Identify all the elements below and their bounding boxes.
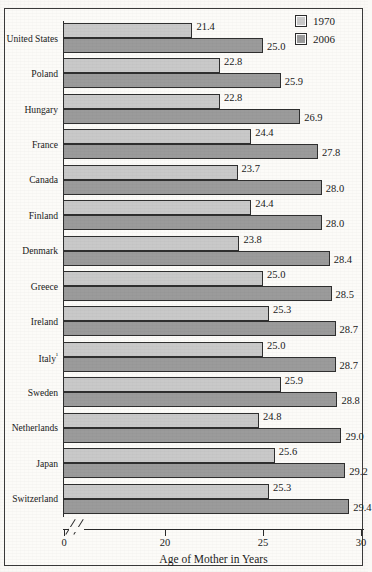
bar-value-label: 28.7: [340, 361, 358, 372]
bar-italy-2006: [63, 357, 336, 372]
chart-frame: 1970 2006 United StatesPolandHungaryFran…: [4, 8, 363, 566]
category-label: France: [32, 140, 58, 150]
bar-value-label: 22.8: [224, 57, 242, 68]
category-label: Denmark: [22, 246, 58, 256]
x-tick-label: 25: [258, 538, 269, 549]
bar-value-label: 25.3: [273, 305, 291, 316]
bar-value-label: 24.4: [255, 199, 273, 210]
bar-ireland-2006: [63, 321, 336, 336]
x-tick: [263, 529, 264, 536]
bar-value-label: 25.6: [279, 447, 297, 458]
category-label: Poland: [31, 69, 58, 79]
bar-united-states-1970: [63, 23, 192, 38]
category-label: Finland: [29, 211, 58, 221]
bar-value-label: 28.0: [326, 219, 344, 230]
bar-value-label: 25.3: [273, 483, 291, 494]
bar-greece-1970: [63, 271, 263, 286]
x-tick-label: 0: [61, 538, 66, 549]
x-tick-label: 20: [160, 538, 171, 549]
axis-break-mask: [69, 527, 84, 532]
x-tick: [361, 529, 362, 536]
bar-value-label: 29.2: [349, 467, 367, 478]
bar-canada-2006: [63, 180, 322, 195]
bar-italy-1970: [63, 342, 263, 357]
bar-value-label: 25.9: [285, 376, 303, 387]
x-tick: [64, 529, 65, 536]
category-label: Canada: [29, 175, 58, 185]
category-label-column: United StatesPolandHungaryFranceCanadaFi…: [5, 9, 63, 517]
bar-value-label: 29.4: [353, 503, 371, 514]
bar-value-label: 25.0: [267, 341, 285, 352]
x-axis-title: Age of Mother in Years: [63, 554, 364, 566]
category-label: Greece: [31, 282, 58, 292]
bar-value-label: 22.8: [224, 93, 242, 104]
bar-value-label: 25.9: [285, 77, 303, 88]
bar-value-label: 25.0: [267, 42, 285, 53]
bar-value-label: 26.9: [304, 113, 322, 124]
bar-switzerland-2006: [63, 499, 349, 514]
bar-denmark-2006: [63, 251, 330, 266]
bar-value-label: 28.7: [340, 325, 358, 336]
bar-ireland-1970: [63, 306, 269, 321]
bar-greece-2006: [63, 286, 332, 301]
bar-sweden-1970: [63, 377, 281, 392]
bar-sweden-2006: [63, 392, 337, 407]
x-tick: [165, 529, 166, 536]
bar-japan-2006: [63, 463, 345, 478]
category-label: Sweden: [28, 388, 58, 398]
bar-value-label: 24.8: [263, 412, 281, 423]
category-label: Ireland: [31, 317, 58, 327]
bar-united-states-2006: [63, 38, 263, 53]
category-label: Japan: [36, 459, 58, 469]
bar-value-label: 23.7: [242, 164, 260, 175]
bar-netherlands-2006: [63, 428, 341, 443]
bar-value-label: 29.0: [345, 432, 363, 443]
x-tick-label: 30: [356, 538, 367, 549]
bar-value-label: 24.4: [255, 128, 273, 139]
category-label: Switzerland: [12, 494, 58, 504]
plot-area: 21.425.022.825.922.826.924.427.823.728.0…: [63, 21, 364, 517]
bar-france-1970: [63, 129, 251, 144]
bar-value-label: 23.8: [243, 235, 261, 246]
bar-value-label: 28.4: [334, 255, 352, 266]
bar-poland-1970: [63, 58, 220, 73]
bar-canada-1970: [63, 165, 238, 180]
bar-value-label: 28.5: [336, 290, 354, 301]
bar-japan-1970: [63, 448, 275, 463]
category-label: Hungary: [24, 105, 58, 115]
x-axis-line: [63, 529, 364, 530]
bar-netherlands-1970: [63, 413, 259, 428]
bar-value-label: 27.8: [322, 148, 340, 159]
bar-denmark-1970: [63, 236, 239, 251]
cut-off-header-text: [22, 0, 142, 5]
bar-value-label: 28.0: [326, 184, 344, 195]
bar-switzerland-1970: [63, 484, 269, 499]
bar-value-label: 28.8: [341, 396, 359, 407]
bar-finland-2006: [63, 215, 322, 230]
bar-france-2006: [63, 144, 318, 159]
bar-hungary-2006: [63, 109, 300, 124]
bar-poland-2006: [63, 73, 281, 88]
category-label: Netherlands: [12, 423, 58, 433]
category-label: United States: [7, 34, 58, 44]
bar-value-label: 21.4: [196, 22, 214, 33]
bar-finland-1970: [63, 200, 251, 215]
bar-value-label: 25.0: [267, 270, 285, 281]
bar-hungary-1970: [63, 94, 220, 109]
category-label: Italy¹: [38, 353, 58, 364]
